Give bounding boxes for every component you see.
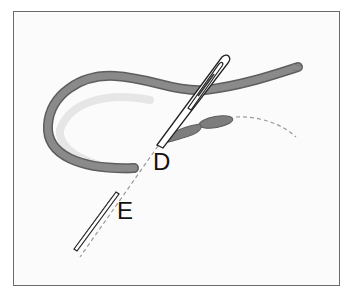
stitch-segment-1 <box>198 114 233 131</box>
dashed-stitch-line-right <box>236 117 296 137</box>
point-e-label: E <box>117 199 133 223</box>
stitch-illustration <box>0 0 343 296</box>
point-d-label: D <box>153 150 170 174</box>
needle-lower <box>74 192 119 251</box>
